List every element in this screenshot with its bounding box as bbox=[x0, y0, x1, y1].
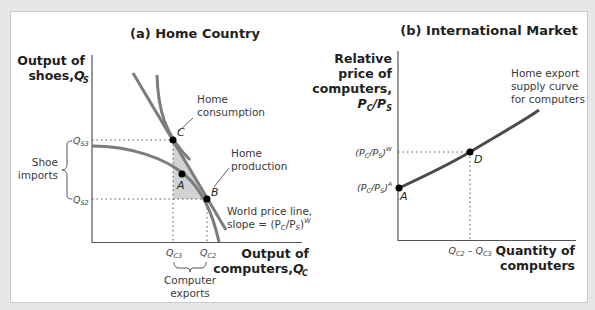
label-point-d: D bbox=[474, 153, 482, 166]
point-d bbox=[467, 149, 474, 156]
shoe-imports-1: Shoe bbox=[32, 156, 58, 168]
panel-b-y-label-3: computers, bbox=[312, 81, 392, 96]
tick-world-price: (PC/PS)W bbox=[355, 145, 393, 160]
tick-qs2: QS2 bbox=[73, 194, 89, 207]
panel-a-x-label-2: computers, bbox=[213, 261, 293, 276]
trade-diagram: (a) Home Country Output of shoes, Q S C … bbox=[0, 0, 595, 310]
shoe-imports-brace bbox=[62, 141, 72, 199]
tick-export-qty: QC2 – QC3 bbox=[448, 245, 491, 258]
panel-b-y-label-2: price of bbox=[338, 66, 392, 81]
point-a bbox=[179, 171, 186, 178]
label-point-b: B bbox=[211, 186, 219, 199]
panel-a-title: (a) Home Country bbox=[130, 26, 260, 41]
home-production-2: production bbox=[231, 160, 287, 172]
tick-qc2: QC2 bbox=[200, 247, 216, 260]
computer-exports-2: exports bbox=[170, 287, 209, 299]
supply-curve-label-2: supply curve bbox=[511, 80, 578, 92]
home-consumption-1: Home bbox=[197, 93, 228, 105]
production-possibility-frontier bbox=[92, 146, 219, 242]
tick-qs3: QS3 bbox=[73, 135, 89, 148]
world-price-line-label-1: World price line, bbox=[227, 205, 312, 217]
leader-consumption bbox=[179, 118, 193, 131]
panel-a-x-symbol-sub: C bbox=[302, 269, 308, 278]
point-c bbox=[170, 137, 177, 144]
home-production-1: Home bbox=[231, 147, 262, 159]
world-price-line-label-2: slope = (PC/PS)W bbox=[227, 217, 311, 232]
panel-b-x-label-1: Quantity of bbox=[495, 243, 575, 258]
supply-curve-label-3: for computers bbox=[511, 93, 585, 105]
panel-b-y-label-1: Relative bbox=[334, 51, 392, 66]
label-point-a: A bbox=[176, 179, 185, 192]
computer-exports-brace bbox=[174, 262, 206, 272]
supply-curve-label-1: Home export bbox=[511, 67, 579, 79]
tick-autarky-price: (PC/PS)A bbox=[357, 180, 392, 195]
panel-a-y-label-1: Output of bbox=[17, 53, 85, 68]
label-point-a-market: A bbox=[399, 190, 408, 203]
panel-a-x-label-1: Output of bbox=[241, 246, 309, 261]
shoe-imports-2: imports bbox=[18, 169, 58, 181]
computer-exports-1: Computer bbox=[164, 274, 217, 286]
label-point-c: C bbox=[177, 126, 185, 139]
panel-a-y-symbol-sub: S bbox=[83, 76, 89, 85]
tick-qc3: QC3 bbox=[166, 247, 182, 260]
panel-b-title: (b) International Market bbox=[400, 23, 577, 38]
home-consumption-2: consumption bbox=[197, 106, 265, 118]
panel-a-y-label-2: shoes, bbox=[28, 68, 74, 83]
point-b bbox=[204, 196, 211, 203]
panel-b-x-label-2: computers bbox=[500, 258, 575, 273]
leader-production bbox=[214, 168, 229, 187]
panel-b-y-label-4: PC/PS bbox=[357, 96, 392, 113]
